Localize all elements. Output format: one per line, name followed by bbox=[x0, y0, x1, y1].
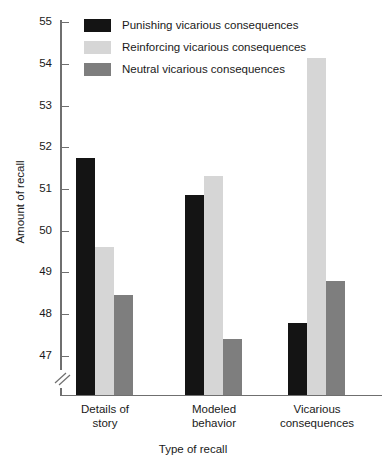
bar-modeled-reinforcing bbox=[204, 176, 223, 395]
legend-swatch-reinforcing-icon bbox=[84, 41, 111, 54]
bar-vicarious-punishing bbox=[288, 323, 307, 395]
legend-label-punishing: Punishing vicarious consequences bbox=[122, 16, 298, 34]
bar-chart: Amount of recall 55 54 53 52 51 50 49 48… bbox=[0, 0, 386, 463]
bar-modeled-punishing bbox=[185, 195, 204, 395]
x-group-label-vicarious: Vicarious consequences bbox=[257, 402, 377, 430]
x-group-label-details: Details of story bbox=[45, 402, 165, 430]
legend-label-reinforcing: Reinforcing vicarious consequences bbox=[122, 38, 306, 56]
bar-vicarious-neutral bbox=[326, 281, 345, 395]
x-axis-title: Type of recall bbox=[0, 443, 386, 455]
x-group-label-line1: Modeled bbox=[154, 402, 274, 416]
x-group-label-line2: story bbox=[45, 416, 165, 430]
x-group-label-line2: consequences bbox=[257, 416, 377, 430]
bar-vicarious-reinforcing bbox=[307, 58, 326, 396]
bar-modeled-neutral bbox=[223, 339, 242, 395]
x-group-label-line1: Vicarious bbox=[257, 402, 377, 416]
bar-details-reinforcing bbox=[95, 247, 114, 395]
legend-swatch-punishing-icon bbox=[84, 19, 111, 32]
x-group-label-modeled: Modeled behavior bbox=[154, 402, 274, 430]
bar-details-punishing bbox=[76, 158, 95, 395]
legend-swatch-neutral-icon bbox=[84, 63, 111, 76]
legend-label-neutral: Neutral vicarious consequences bbox=[122, 60, 285, 78]
x-group-label-line2: behavior bbox=[154, 416, 274, 430]
bar-details-neutral bbox=[114, 295, 133, 395]
x-group-label-line1: Details of bbox=[45, 402, 165, 416]
